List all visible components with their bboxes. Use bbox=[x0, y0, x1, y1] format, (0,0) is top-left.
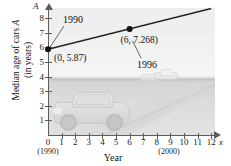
chart-figure: A x 87654321 0123456789101112 (1990) (20… bbox=[0, 0, 231, 166]
data-point-0-label: (0, 5.87) bbox=[54, 53, 86, 63]
leader-line-1990 bbox=[50, 26, 64, 47]
data-point-1-label: (6, 7.268) bbox=[121, 35, 158, 45]
annotation-1990: 1990 bbox=[63, 15, 83, 25]
data-overlay bbox=[0, 0, 231, 166]
data-point-0[interactable] bbox=[45, 46, 51, 52]
annotation-1996: 1996 bbox=[137, 60, 157, 70]
data-point-1[interactable] bbox=[127, 26, 133, 32]
